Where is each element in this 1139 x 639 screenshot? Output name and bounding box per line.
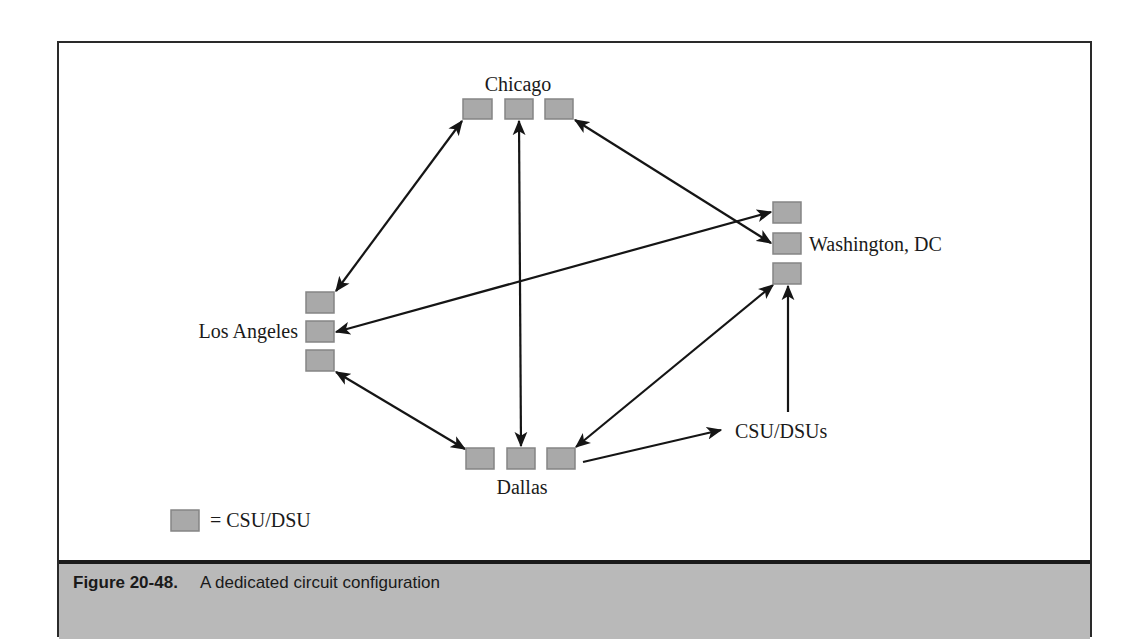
legend-text: = CSU/DSU	[210, 509, 311, 531]
csu-dsus-annotation: CSU/DSUs	[735, 420, 827, 442]
csu-dsu-icon	[466, 448, 494, 469]
link-la-dallas	[336, 372, 465, 449]
link-chicago-washington	[575, 120, 771, 243]
site-dallas: Dallas	[466, 448, 575, 498]
pointer-from-dallas-csu	[583, 430, 721, 462]
site-los-angeles: Los Angeles	[199, 292, 334, 371]
washington-label: Washington, DC	[809, 233, 942, 256]
csu-dsu-icon	[306, 321, 334, 342]
legend: = CSU/DSU	[171, 509, 311, 531]
csu-dsu-icon	[507, 448, 535, 469]
csu-dsu-icon	[505, 99, 533, 119]
csu-dsu-icon	[306, 350, 334, 371]
csu-dsu-icon	[463, 99, 492, 119]
csu-dsu-icon	[773, 233, 801, 254]
dallas-label: Dallas	[496, 476, 547, 498]
chicago-label: Chicago	[485, 73, 552, 96]
link-chicago-dallas	[519, 121, 521, 446]
site-washington: Washington, DC	[773, 202, 942, 284]
link-la-washington	[336, 212, 771, 332]
csu-dsu-icon	[306, 292, 334, 313]
link-la-chicago	[336, 121, 462, 291]
csu-dsu-icon	[773, 202, 801, 223]
los-angeles-label: Los Angeles	[199, 320, 299, 343]
csu-dsu-icon	[547, 448, 575, 469]
csu-dsu-icon	[773, 263, 801, 284]
site-chicago: Chicago	[463, 73, 573, 119]
links	[336, 120, 788, 462]
legend-csu-dsu-icon	[171, 510, 199, 531]
csu-dsu-icon	[545, 99, 573, 119]
